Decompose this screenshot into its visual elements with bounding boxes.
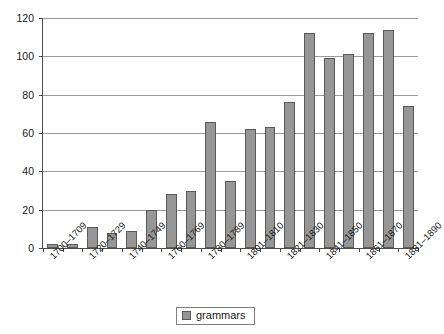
- bar: [363, 33, 374, 248]
- x-tick-mark: [280, 248, 281, 252]
- bars-layer: [43, 18, 418, 248]
- bar: [166, 194, 177, 248]
- plot-area: 020406080100120: [42, 18, 418, 249]
- y-tick-label-60: 60: [4, 128, 34, 138]
- bar: [284, 102, 295, 248]
- y-tick-label-80: 80: [4, 90, 34, 100]
- bar: [245, 129, 256, 248]
- x-tick-mark: [43, 248, 44, 252]
- bar: [343, 54, 354, 248]
- y-tick-label-120: 120: [4, 13, 34, 23]
- y-tick-label-100: 100: [4, 51, 34, 61]
- x-tick-mark: [359, 248, 360, 252]
- y-tick-label-0: 0: [4, 243, 34, 253]
- x-tick-mark: [240, 248, 241, 252]
- bar: [304, 33, 315, 248]
- legend-label-grammars: grammars: [196, 310, 246, 321]
- y-tick-label-20: 20: [4, 205, 34, 215]
- bar: [383, 30, 394, 249]
- y-tick-label-40: 40: [4, 166, 34, 176]
- x-tick-mark: [122, 248, 123, 252]
- x-tick-mark: [398, 248, 399, 252]
- x-tick-mark: [161, 248, 162, 252]
- bar: [205, 122, 216, 249]
- bar: [324, 58, 335, 248]
- x-tick-mark: [201, 248, 202, 252]
- legend: grammars: [176, 307, 255, 325]
- x-tick-mark: [319, 248, 320, 252]
- legend-swatch-grammars: [182, 311, 191, 320]
- x-tick-mark: [82, 248, 83, 252]
